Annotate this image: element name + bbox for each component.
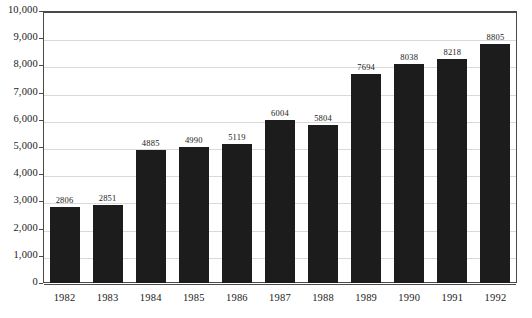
bar-group: 2806: [50, 11, 80, 283]
bar-group: 4885: [136, 11, 166, 283]
bar-value-label: 8218: [443, 47, 461, 57]
bar: [222, 144, 252, 283]
x-axis-tick-label: 1989: [345, 292, 388, 303]
bar: [394, 64, 424, 283]
y-axis-tick-label: 3,000: [0, 194, 38, 205]
x-axis-tick-label: 1985: [172, 292, 215, 303]
bar: [136, 150, 166, 283]
bar-group: 8805: [480, 11, 510, 283]
y-axis-tick-label: 6,000: [0, 113, 38, 124]
y-axis-tick-label: 2,000: [0, 222, 38, 233]
bar-value-label: 4990: [185, 135, 203, 145]
bar: [50, 207, 80, 283]
bar-group: 8218: [437, 11, 467, 283]
bar-value-label: 2851: [99, 193, 117, 203]
y-axis-tick-label: 1,000: [0, 249, 38, 260]
y-axis-tick-label: 8,000: [0, 58, 38, 69]
x-axis-tick-label: 1990: [388, 292, 431, 303]
x-axis-tick-label: 1982: [43, 292, 86, 303]
gridline: [44, 284, 516, 285]
y-axis-tick-label: 5,000: [0, 140, 38, 151]
bars-layer: 2806285148854990511960045804769480388218…: [43, 11, 517, 283]
bar-group: 2851: [93, 11, 123, 283]
bar-value-label: 8038: [400, 52, 418, 62]
bar-value-label: 5119: [228, 132, 246, 142]
bar-group: 5119: [222, 11, 252, 283]
y-axis-tick-mark: [39, 283, 43, 284]
bar: [93, 205, 123, 283]
bar: [179, 147, 209, 283]
bar: [308, 125, 338, 283]
bar: [351, 74, 381, 283]
bar-value-label: 4885: [142, 138, 160, 148]
bar: [480, 44, 510, 283]
x-axis-tick-label: 1986: [215, 292, 258, 303]
y-axis-tick-label: 4,000: [0, 167, 38, 178]
bar-value-label: 8805: [487, 32, 505, 42]
y-axis-tick-label: 9,000: [0, 31, 38, 42]
x-axis-tick-label: 1987: [258, 292, 301, 303]
x-axis-tick-label: 1983: [86, 292, 129, 303]
y-axis-tick-label: 7,000: [0, 86, 38, 97]
bar-group: 7694: [351, 11, 381, 283]
bar: [437, 59, 467, 283]
bar-group: 4990: [179, 11, 209, 283]
x-axis-tick-label: 1991: [431, 292, 474, 303]
y-axis: 01,0002,0003,0004,0005,0006,0007,0008,00…: [0, 0, 38, 318]
y-axis-tick-label: 10,000: [0, 4, 38, 15]
bar-chart: 01,0002,0003,0004,0005,0006,0007,0008,00…: [0, 0, 532, 318]
bar-value-label: 7694: [357, 62, 375, 72]
bar-value-label: 6004: [271, 108, 289, 118]
x-axis-tick-label: 1992: [474, 292, 517, 303]
bar-group: 5804: [308, 11, 338, 283]
bar-value-label: 2806: [56, 195, 74, 205]
x-axis: 1982198319841985198619871988198919901991…: [43, 292, 517, 312]
y-axis-tick-label: 0: [0, 276, 38, 287]
bar-group: 8038: [394, 11, 424, 283]
bar-value-label: 5804: [314, 113, 332, 123]
x-axis-tick-label: 1988: [302, 292, 345, 303]
x-axis-tick-label: 1984: [129, 292, 172, 303]
bar-group: 6004: [265, 11, 295, 283]
bar: [265, 120, 295, 283]
